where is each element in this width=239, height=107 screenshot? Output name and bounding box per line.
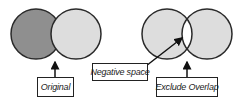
- exclude-overlap-label: Exclude Overlap: [156, 77, 218, 97]
- original-label: Original: [37, 77, 74, 97]
- negative-space-label: Negative space: [92, 63, 148, 81]
- original-light-circle: [51, 9, 101, 59]
